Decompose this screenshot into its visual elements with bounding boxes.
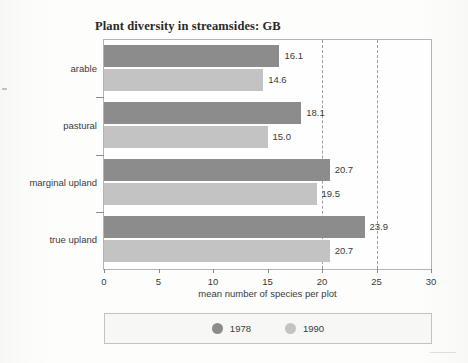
bar-1990-arable[interactable] [104, 69, 263, 91]
bar-row [104, 126, 431, 148]
x-tick-label-20: 20 [317, 276, 328, 287]
bar-row [104, 102, 431, 124]
x-tick-label-25: 25 [371, 276, 382, 287]
bar-row [104, 45, 431, 67]
y-category-label: true upland [49, 234, 97, 245]
scan-artifact-left [2, 88, 7, 90]
legend-label-1978: 1978 [230, 323, 251, 334]
x-tick-mark-30 [431, 269, 432, 273]
y-tick-mark [96, 212, 104, 213]
legend-item-1978[interactable]: 1978 [212, 323, 251, 334]
x-tick-mark-20 [322, 269, 323, 273]
bar-value-label: 23.9 [370, 222, 389, 232]
x-axis-label: mean number of species per plot [103, 288, 432, 299]
bar-1978-true-upland[interactable] [104, 216, 365, 238]
y-tick-mark [96, 97, 104, 98]
bar-1990-marginal-upland[interactable] [104, 183, 317, 205]
y-category-label: marginal upland [29, 177, 97, 188]
x-tick-label-10: 10 [208, 276, 219, 287]
bar-value-label: 20.7 [335, 246, 354, 256]
chart-title: Plant diversity in streamsides: GB [95, 19, 281, 34]
legend-marker-circle-1990 [285, 323, 296, 334]
bar-row [104, 159, 431, 181]
bar-value-label: 19.5 [322, 189, 341, 199]
bar-value-label: 14.6 [268, 75, 287, 85]
bar-1978-marginal-upland[interactable] [104, 159, 330, 181]
bar-1990-pastural[interactable] [104, 126, 268, 148]
x-tick-mark-0 [104, 269, 105, 273]
bar-row [104, 183, 431, 205]
x-tick-mark-10 [213, 269, 214, 273]
scan-artifact-bottom [430, 352, 456, 353]
y-tick-mark [96, 155, 104, 156]
legend-item-1990[interactable]: 1990 [285, 323, 324, 334]
x-tick-label-30: 30 [426, 276, 437, 287]
x-tick-mark-15 [268, 269, 269, 273]
bar-value-label: 18.1 [306, 108, 325, 118]
bar-1978-arable[interactable] [104, 45, 279, 67]
bar-1990-true-upland[interactable] [104, 240, 330, 262]
legend-label-1990: 1990 [303, 323, 324, 334]
chart-legend: 1978 1990 [104, 313, 432, 344]
x-tick-label-5: 5 [156, 276, 161, 287]
x-tick-mark-25 [377, 269, 378, 273]
bar-row [104, 240, 431, 262]
bar-value-label: 15.0 [273, 132, 292, 142]
bar-1978-pastural[interactable] [104, 102, 301, 124]
legend-marker-circle-1978 [212, 323, 223, 334]
y-category-label: arable [71, 63, 97, 74]
x-tick-label-0: 0 [101, 276, 106, 287]
bar-value-label: 20.7 [335, 165, 354, 175]
bar-value-label: 16.1 [284, 51, 303, 61]
x-tick-label-15: 15 [262, 276, 273, 287]
x-tick-mark-5 [159, 269, 160, 273]
y-category-label: pastural [63, 120, 97, 131]
